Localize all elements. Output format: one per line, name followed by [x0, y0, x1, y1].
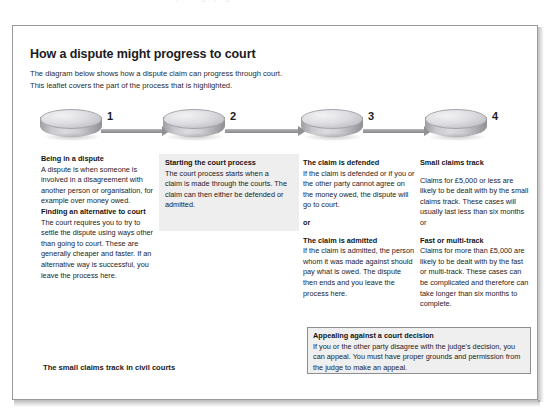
- column-1-block-2-body: The court requires you to try to settle …: [41, 218, 153, 282]
- arrow-right-icon: [225, 129, 299, 133]
- column-1-block-1-heading: Being in a dispute: [41, 154, 153, 165]
- column-3-block-3-heading: The claim is admitted: [303, 236, 415, 247]
- footer-note: The small claims track in civil courts: [43, 363, 175, 372]
- scan-cutoff-text: a dispute might progress to court: [160, 0, 272, 1]
- leaflet-page-frame: How a dispute might progress to court Th…: [12, 25, 538, 400]
- appeal-body: If you or the other party disagree with …: [313, 342, 528, 374]
- scan-top-cutoff-strip: a dispute might progress to court: [0, 0, 550, 12]
- puck-shadow: [428, 133, 486, 141]
- step-column-4: Small claims track Claims for £5,000 or …: [420, 158, 530, 310]
- process-puck-icon: [40, 109, 102, 143]
- column-3-spacer: [303, 211, 415, 218]
- step-column-1: Being in a dispute A dispute is when som…: [41, 154, 153, 281]
- column-4-block-2-heading: Fast or multi-track: [420, 236, 530, 247]
- column-4-spacer: [420, 169, 530, 176]
- column-3-block-3-body: If the claim is admitted, the person who…: [303, 246, 415, 299]
- step-number-3: 3: [368, 110, 374, 122]
- column-3-spacer-2: [303, 229, 415, 236]
- puck-top: [163, 109, 225, 129]
- appeal-heading: Appealing against a court decision: [313, 331, 528, 342]
- arrow-right-icon: [363, 129, 425, 133]
- puck-shadow: [166, 133, 224, 141]
- puck-top: [40, 109, 102, 129]
- process-puck-icon: [301, 109, 363, 143]
- appeal-callout-content: Appealing against a court decision If yo…: [313, 331, 528, 373]
- column-4-block-1-heading: Small claims track: [420, 158, 530, 169]
- column-4-block-2-body: Claims for more than £5,000 are likely t…: [420, 246, 530, 310]
- column-2-block-1-body: The court process starts when a claim is…: [165, 169, 287, 211]
- column-3-block-1-heading: The claim is defended: [303, 158, 415, 169]
- process-puck-icon: [425, 109, 487, 143]
- column-3-block-1-body: If the claim is defended or if you or th…: [303, 169, 415, 211]
- arrow-right-icon: [101, 129, 163, 133]
- step-column-3: The claim is defended If the claim is de…: [303, 158, 415, 299]
- process-puck-icon: [163, 109, 225, 143]
- puck-top: [301, 109, 363, 129]
- step-column-2: Starting the court process The court pro…: [165, 158, 287, 211]
- step-number-2: 2: [230, 110, 236, 122]
- step-number-4: 4: [492, 110, 498, 122]
- puck-shadow: [304, 133, 362, 141]
- column-1-block-1-body: A dispute is when someone is involved in…: [41, 165, 153, 207]
- column-4-spacer-2: [420, 229, 530, 236]
- step-number-1: 1: [107, 110, 113, 122]
- column-2-block-1-heading: Starting the court process: [165, 158, 287, 169]
- column-1-block-2-heading: Finding an alternative to court: [41, 207, 153, 218]
- column-4-block-1-body: Claims for £5,000 or less are likely to …: [420, 176, 530, 229]
- puck-shadow: [43, 133, 101, 141]
- frame-shadow-bottom: [14, 400, 540, 407]
- column-3-block-2-heading: or: [303, 218, 415, 229]
- puck-top: [425, 109, 487, 129]
